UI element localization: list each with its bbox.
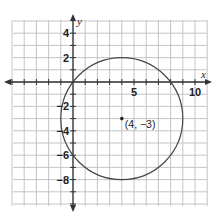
arrow-up-icon xyxy=(70,14,76,21)
y-tick-label: 4 xyxy=(63,27,70,39)
arrow-left-icon xyxy=(4,79,11,85)
arrow-right-icon xyxy=(205,79,212,85)
y-axis-label: y xyxy=(76,15,82,27)
arrow-down-icon xyxy=(70,205,76,212)
x-tick-label: 5 xyxy=(131,86,137,98)
axes: xy xyxy=(4,14,212,212)
x-tick-label: 10 xyxy=(189,86,201,98)
center-point: (4, −3) xyxy=(120,117,155,130)
center-point-label: (4, −3) xyxy=(125,118,156,130)
center-dot xyxy=(120,117,124,121)
y-tick-label: −4 xyxy=(56,125,69,137)
y-tick-label: −6 xyxy=(56,149,69,161)
y-tick-label: 2 xyxy=(63,52,69,64)
y-tick-label: −2 xyxy=(56,100,69,112)
coordinate-plane: xy 51042−2−4−6−8 (4, −3) xyxy=(0,0,216,220)
x-axis-label: x xyxy=(200,68,206,80)
y-tick-label: −8 xyxy=(56,174,69,186)
